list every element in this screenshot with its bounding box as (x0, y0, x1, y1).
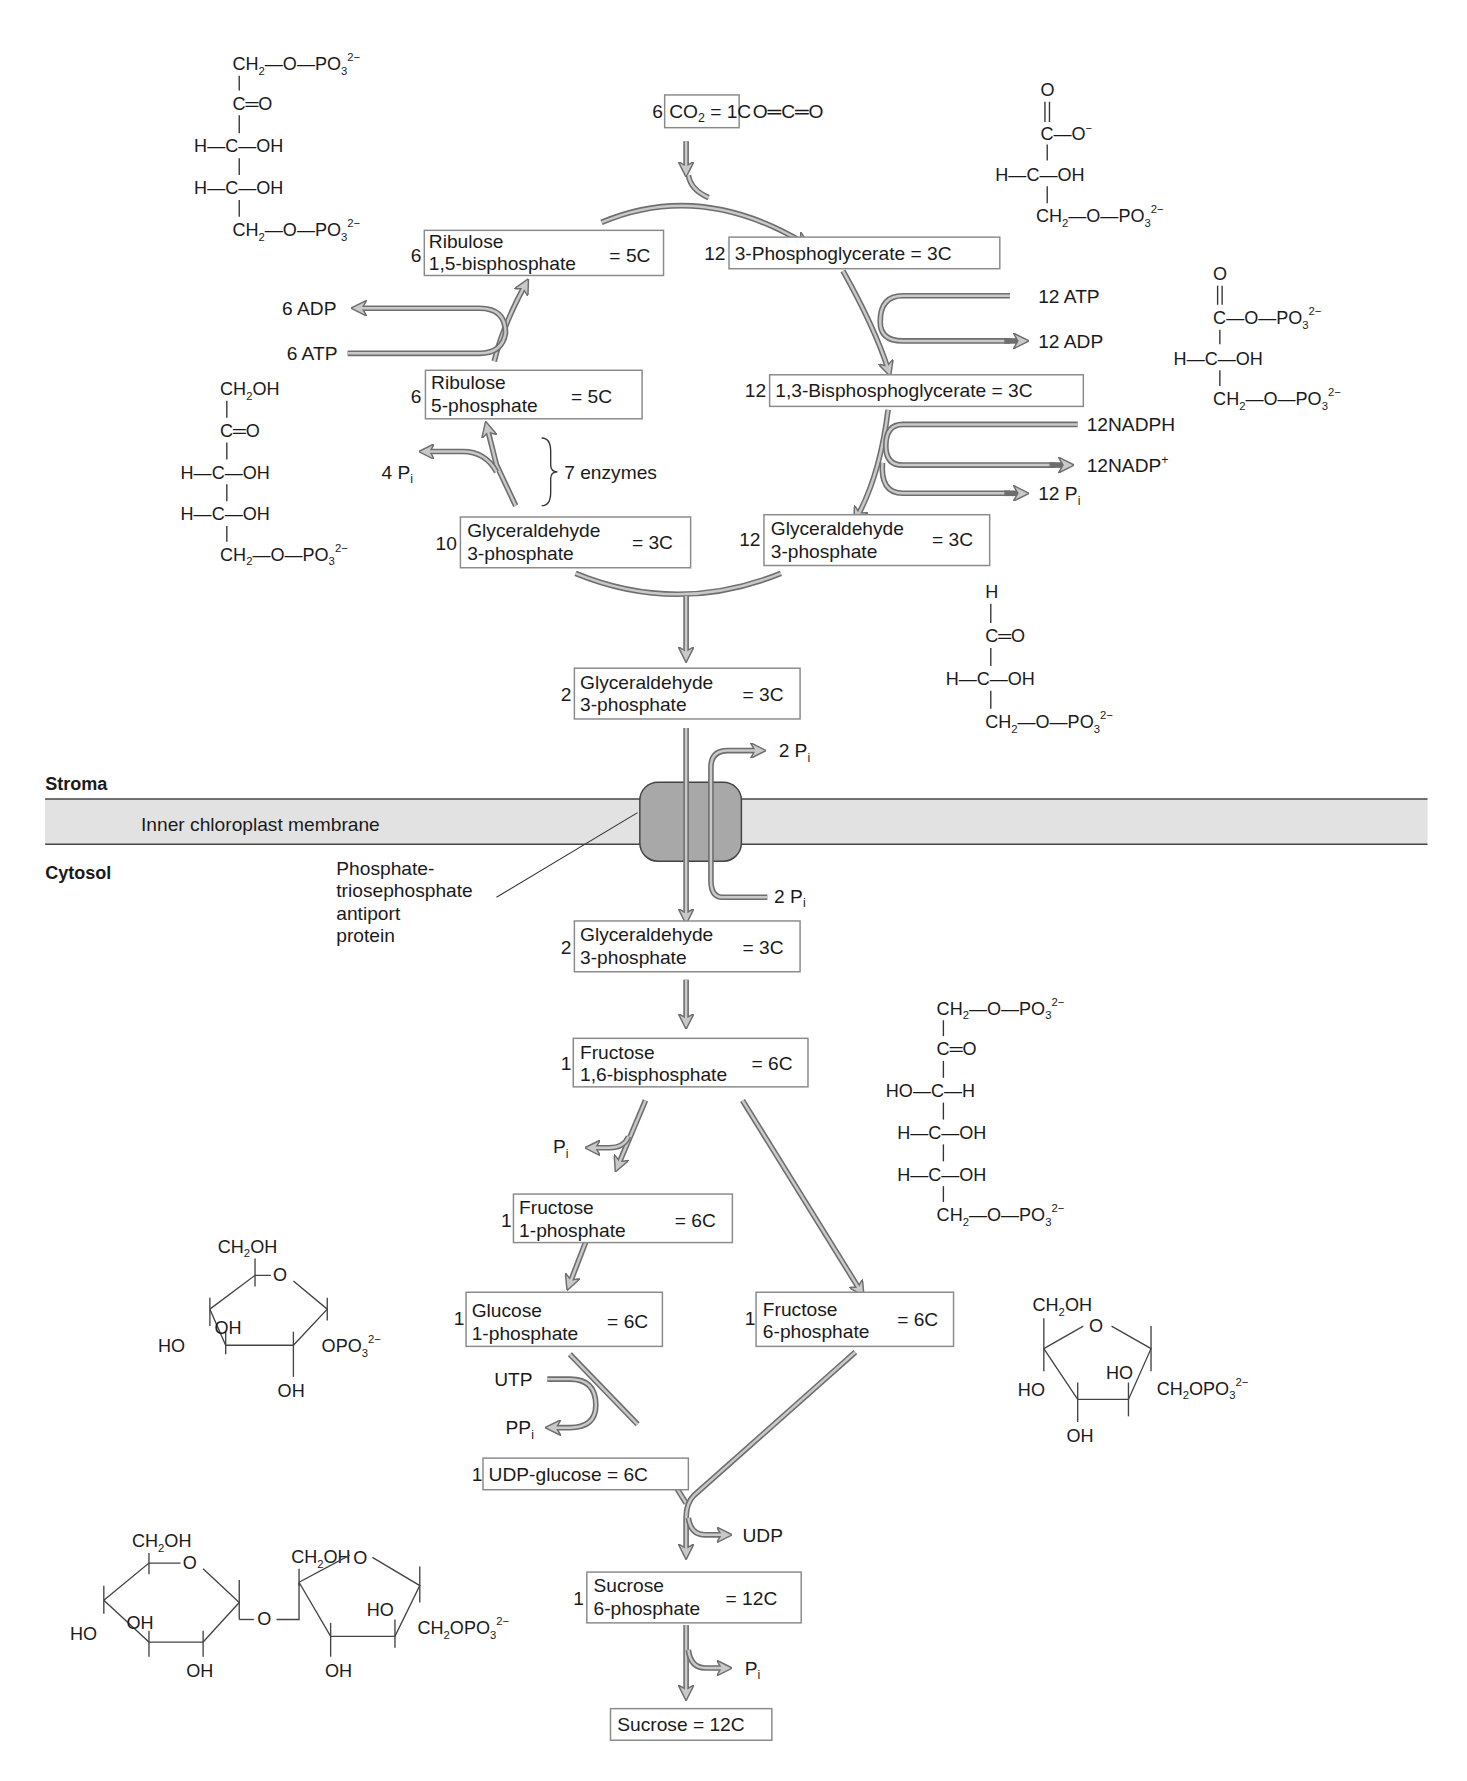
svg-text:10: 10 (436, 533, 457, 554)
svg-text:H—C—OH: H—C—OH (194, 178, 283, 198)
enzymes-brace (542, 438, 558, 506)
svg-text:Glyceraldehyde: Glyceraldehyde (467, 520, 600, 541)
rubp-structure: CH2—O—PO32− C═O H—C—OH H—C—OH CH2—O—PO32… (194, 51, 360, 242)
svg-text:Fructose: Fructose (580, 1042, 655, 1063)
membrane-label: Inner chloroplast membrane (141, 814, 380, 835)
svg-text:Sucrose = 12C: Sucrose = 12C (617, 1714, 745, 1735)
svg-text:= 6C: = 6C (607, 1311, 648, 1332)
svg-text:CH2OH: CH2OH (218, 1237, 277, 1260)
svg-text:CH2OPO32−: CH2OPO32− (1157, 1376, 1249, 1402)
ru5p-structure: CH2OH C═O H—C—OH H—C—OH CH2—O—PO32− (181, 379, 349, 567)
node-sucrose: Sucrose = 12C (610, 1709, 771, 1741)
svg-text:O: O (257, 1609, 271, 1629)
svg-text:6-phosphate: 6-phosphate (594, 1598, 701, 1619)
svg-text:CH2—O—PO32−: CH2—O—PO32− (1213, 386, 1341, 412)
svg-text:1-phosphate: 1-phosphate (472, 1323, 579, 1344)
svg-text:OH: OH (278, 1381, 305, 1401)
svg-text:CH2—O—PO32−: CH2—O—PO32− (985, 709, 1113, 735)
svg-text:C═O: C═O (985, 626, 1025, 646)
svg-text:2 Pi: 2 Pi (779, 740, 811, 765)
cytosol-label: Cytosol (45, 863, 111, 883)
svg-text:Fructose: Fructose (519, 1197, 594, 1218)
svg-text:1: 1 (472, 1464, 483, 1485)
node-f1p: 1 Fructose 1-phosphate = 6C (501, 1194, 732, 1243)
svg-text:O: O (353, 1548, 367, 1568)
svg-text:Glyceraldehyde: Glyceraldehyde (771, 518, 904, 539)
svg-text:OH: OH (325, 1661, 352, 1681)
svg-text:H: H (985, 582, 998, 602)
svg-text:H—C—OH: H—C—OH (897, 1123, 986, 1143)
svg-text:OH: OH (126, 1613, 153, 1633)
svg-text:C—O—PO32−: C—O—PO32− (1213, 305, 1322, 331)
svg-text:1,6-bisphosphate: 1,6-bisphosphate (580, 1064, 727, 1085)
svg-text:CH2—O—PO32−: CH2—O—PO32− (937, 996, 1065, 1022)
3pga-structure: O C—O− H—C—OH CH2—O—PO32− (995, 80, 1164, 229)
svg-text:1,5-bisphosphate: 1,5-bisphosphate (429, 253, 576, 274)
svg-text:1,3-Bisphosphoglycerate = 3C: 1,3-Bisphosphoglycerate = 3C (775, 380, 1033, 401)
svg-text:3-phosphate: 3-phosphate (467, 543, 574, 564)
svg-text:2 Pi: 2 Pi (774, 886, 806, 911)
svg-text:1: 1 (501, 1210, 512, 1231)
svg-text:OPO32−: OPO32− (322, 1333, 382, 1359)
antiport-protein (640, 782, 742, 861)
node-f6p: 1 Fructose 6-phosphate = 6C (745, 1292, 954, 1346)
svg-text:triosephosphate: triosephosphate (336, 880, 472, 901)
calvin-cycle-sucrose-diagram: Inner chloroplast membrane Stroma Cytoso… (0, 0, 1467, 1781)
svg-text:5-phosphate: 5-phosphate (431, 395, 538, 416)
svg-text:Glyceraldehyde: Glyceraldehyde (580, 924, 713, 945)
svg-text:PPi: PPi (506, 1417, 534, 1442)
svg-text:CH2OH: CH2OH (132, 1531, 191, 1554)
antiport-label: Phosphate- triosephosphate antiport prot… (336, 858, 472, 947)
svg-text:12 Pi: 12 Pi (1038, 483, 1080, 508)
svg-text:CH2—O—PO32−: CH2—O—PO32− (232, 51, 360, 77)
svg-text:OH: OH (214, 1318, 241, 1338)
svg-text:= 6C: = 6C (752, 1053, 793, 1074)
svg-text:6-phosphate: 6-phosphate (763, 1321, 870, 1342)
svg-text:= 3C: = 3C (932, 529, 973, 550)
svg-text:CO2 = 1C: CO2 = 1C (669, 101, 751, 126)
svg-text:H—C—OH: H—C—OH (181, 463, 270, 483)
node-s6p: 1 Sucrose 6-phosphate = 12C (573, 1572, 801, 1623)
svg-text:= 5C: = 5C (609, 245, 650, 266)
svg-text:3-phosphate: 3-phosphate (771, 541, 878, 562)
node-g3p-2-cytosol: 2 Glyceraldehyde 3-phosphate = 3C (561, 921, 800, 972)
svg-text:CH2OPO32−: CH2OPO32− (418, 1615, 510, 1641)
node-3pga: 12 3-Phosphoglycerate = 3C (704, 237, 1000, 269)
svg-text:Pi: Pi (745, 1658, 761, 1683)
svg-text:1: 1 (561, 1053, 572, 1074)
svg-text:Ribulose: Ribulose (429, 231, 504, 252)
svg-text:3-phosphate: 3-phosphate (580, 947, 687, 968)
svg-text:HO—C—H: HO—C—H (886, 1081, 975, 1101)
svg-text:12: 12 (739, 529, 760, 550)
svg-text:12NADPH: 12NADPH (1087, 414, 1175, 435)
svg-text:O: O (273, 1265, 287, 1285)
svg-text:UTP: UTP (494, 1369, 532, 1390)
svg-text:Phosphate-: Phosphate- (336, 858, 434, 879)
svg-text:C═O: C═O (937, 1039, 977, 1059)
svg-text:O: O (183, 1553, 197, 1573)
svg-text:CH2OH: CH2OH (220, 379, 279, 402)
s6p-ring-structure: CH2OH O HO OH OH O CH2OH O HO CH2OPO32− … (70, 1531, 510, 1681)
f6p-ring-structure: CH2OH O HO HO CH2OPO32− OH (1018, 1295, 1249, 1446)
node-13bpg: 12 1,3-Bisphosphoglycerate = 3C (745, 375, 1084, 407)
svg-text:C═O: C═O (220, 421, 260, 441)
svg-text:12: 12 (704, 243, 725, 264)
svg-text:4 Pi: 4 Pi (381, 462, 413, 487)
svg-text:3-phosphate: 3-phosphate (580, 694, 687, 715)
svg-text:HO: HO (1106, 1363, 1133, 1383)
svg-text:antiport: antiport (336, 903, 401, 924)
svg-text:HO: HO (70, 1624, 97, 1644)
svg-text:= 6C: = 6C (675, 1210, 716, 1231)
svg-text:O: O (1040, 80, 1054, 100)
g1p-ring-structure: CH2OH O HO OH OPO32− OH (158, 1237, 381, 1401)
svg-text:2: 2 (561, 937, 572, 958)
svg-text:6: 6 (411, 386, 422, 407)
svg-text:1: 1 (573, 1588, 584, 1609)
g3p-structure: H C═O H—C—OH CH2—O—PO32− (946, 582, 1114, 734)
svg-text:6 ADP: 6 ADP (282, 298, 336, 319)
svg-text:CH2—O—PO32−: CH2—O—PO32− (937, 1202, 1065, 1228)
svg-text:= 3C: = 3C (743, 937, 784, 958)
svg-text:Glucose: Glucose (472, 1300, 542, 1321)
svg-text:= 6C: = 6C (897, 1309, 938, 1330)
svg-text:12NADP+: 12NADP+ (1087, 453, 1169, 476)
